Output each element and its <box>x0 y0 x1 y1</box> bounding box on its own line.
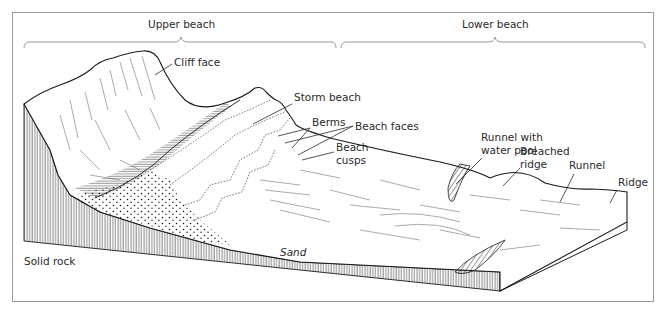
berms-label: Berms <box>312 116 346 128</box>
breached-ridge-label-2: ridge <box>520 158 547 170</box>
lower-beach-label: Lower beach <box>462 18 529 30</box>
cliff-face-label: Cliff face <box>174 56 220 68</box>
beach-cusps-label-1: Beach <box>336 141 369 153</box>
beach-faces-label: Beach faces <box>355 120 419 132</box>
runnel-pool-label-1: Runnel with <box>481 131 543 143</box>
runnel-label: Runnel <box>569 159 605 171</box>
lower-beach-brace <box>341 37 645 48</box>
upper-beach-brace <box>24 37 336 48</box>
ridge-label: Ridge <box>618 176 648 188</box>
upper-beach-label: Upper beach <box>148 18 215 30</box>
beach-diagram: Upper beach Lower beach Cliff face Storm… <box>0 0 663 311</box>
breached-ridge-label-1: Breached <box>520 145 570 157</box>
solid-rock-label: Solid rock <box>24 255 76 267</box>
land-surface <box>24 51 627 291</box>
sand-label: Sand <box>280 246 307 258</box>
beach-cusps-label-2: cusps <box>336 154 366 166</box>
storm-beach-label: Storm beach <box>294 91 361 103</box>
